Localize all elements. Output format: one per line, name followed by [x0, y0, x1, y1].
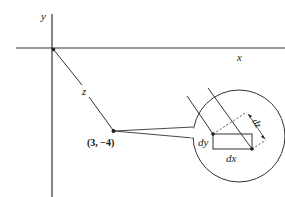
diagram-canvas: y x z (3, −4) dy dx dz [0, 0, 285, 197]
vector-z-segment-1 [54, 50, 83, 86]
x-axis-label: x [236, 51, 242, 63]
point-label: (3, −4) [87, 137, 114, 149]
dy-label: dy [198, 136, 209, 148]
dx-label: dx [226, 152, 237, 164]
vector-z-label: z [81, 85, 87, 97]
callout-line-upper [114, 127, 193, 131]
y-axis-label: y [40, 10, 46, 22]
vector-z-segment-2 [89, 97, 113, 130]
callout-line-lower [114, 131, 193, 138]
